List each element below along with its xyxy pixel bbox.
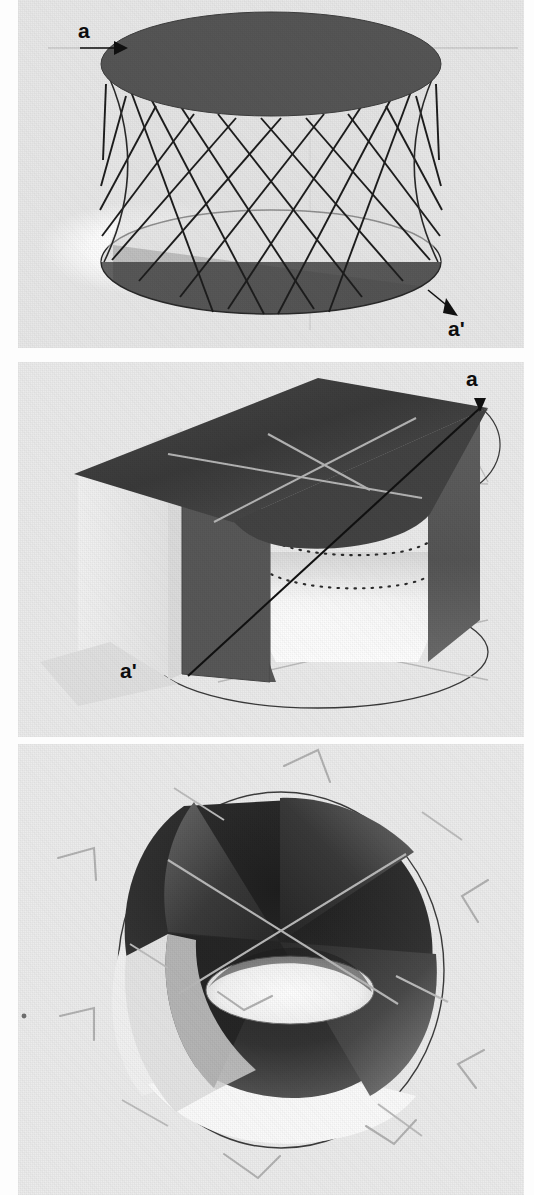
panel-1-drawing — [18, 0, 524, 348]
figure-plate: a a' — [0, 0, 534, 1195]
panel-2-label-a: a — [466, 368, 478, 389]
panel-3-drawing — [18, 744, 524, 1195]
panel-2-label-a-prime: a' — [120, 660, 137, 681]
stray-speck — [22, 1014, 27, 1019]
panel-ruled-hyperboloid — [18, 0, 524, 348]
panel-hyperboloid-from-above — [18, 744, 524, 1195]
panel-1-label-a-prime: a' — [448, 318, 465, 339]
panel-2-drawing — [18, 362, 524, 737]
panel-1-label-a: a — [78, 20, 90, 41]
panel-hyperboloid-cut-by-planes — [18, 362, 524, 737]
top-disk — [101, 12, 441, 116]
